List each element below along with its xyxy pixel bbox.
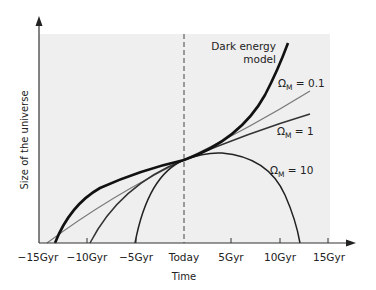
x-tick-label: −10Gyr (67, 251, 109, 263)
x-tick-label: 10Gyr (264, 251, 297, 263)
omega-0.1-value: = 0.1 (293, 77, 325, 89)
y-axis-arrow-icon (36, 16, 43, 26)
omega-symbol: Ω (277, 125, 285, 137)
x-tick-label: 15Gyr (313, 251, 346, 263)
x-tick-label: −15Gyr (18, 251, 60, 263)
x-axis-title: Time (171, 271, 196, 282)
x-axis-arrow-icon (346, 240, 356, 247)
omega-1-value: = 1 (292, 125, 314, 137)
x-tick-label: 5Gyr (218, 251, 244, 263)
x-tick-label: Today (168, 251, 199, 263)
universe-expansion-chart: −15Gyr −10Gyr −5Gyr Today 5Gyr 10Gyr 15G… (0, 0, 376, 290)
dark-energy-label-line2: model (243, 53, 276, 65)
omega-10-value: = 10 (285, 164, 314, 176)
y-axis-title: Size of the universe (19, 90, 30, 189)
x-tick-label: −5Gyr (119, 251, 154, 263)
omega-symbol: Ω (278, 77, 286, 89)
omega-symbol: Ω (270, 164, 278, 176)
dark-energy-label-line1: Dark energy (211, 40, 276, 52)
